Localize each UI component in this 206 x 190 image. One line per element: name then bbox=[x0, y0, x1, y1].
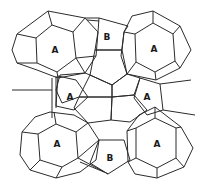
middle-network bbox=[12, 50, 195, 123]
label-a-bottom-right: A bbox=[154, 139, 161, 149]
cage-structure-diagram: A B A A A A B A bbox=[0, 0, 206, 190]
label-a-mid-right: A bbox=[144, 92, 151, 102]
label-a-bottom-left: A bbox=[54, 139, 61, 149]
diagram-canvas: A B A A A A B A bbox=[0, 0, 206, 190]
cage-b-bottom bbox=[78, 140, 130, 174]
label-b-bottom: B bbox=[107, 153, 114, 163]
label-a-mid-left: A bbox=[67, 92, 74, 102]
label-a-top-right: A bbox=[151, 44, 158, 54]
label-a-top-left: A bbox=[52, 45, 59, 55]
label-b-top: B bbox=[104, 32, 111, 42]
